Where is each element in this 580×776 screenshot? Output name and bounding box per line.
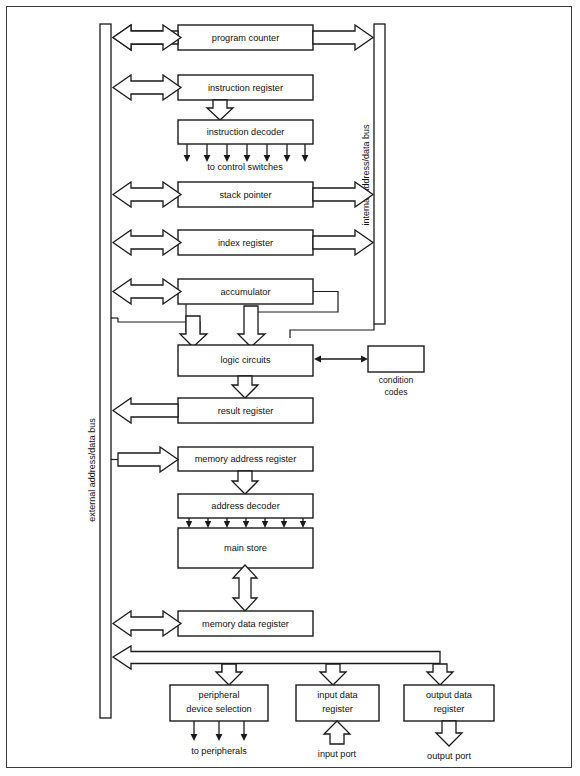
arrow-output-register-to-port [436,721,462,746]
block-condition-codes [368,346,424,372]
arrow-stack-pointer-external [113,182,181,207]
label-instruction-register: instruction register [208,83,283,93]
arrowhead-condition-to-logic [314,356,321,363]
label-peripheral-line2: device selection [186,704,251,714]
external-bus-label: external address/data bus [87,418,97,522]
label-index-register: index register [218,238,273,248]
label-memory-address-register: memory address register [195,454,297,464]
internal-bus-label: internal address/data bus [361,124,371,226]
label-memory-data-register: memory data register [202,619,289,629]
label-to-peripherals: to peripherals [191,746,247,756]
label-input-data-line1: input data [317,690,358,700]
arrow-accumulator-external [113,279,181,304]
arrow-instruction-register-external [113,75,181,100]
label-output-data-line2: register [434,704,465,714]
label-input-port: input port [318,749,357,759]
arrow-logic-to-result [232,376,258,398]
label-main-store: main store [224,543,267,553]
label-program-counter: program counter [212,33,279,43]
arrow-input-register-to-bus [320,664,346,685]
figure-canvas: external address/data bus internal addre… [0,0,580,776]
label-accumulator: accumulator [220,287,270,297]
label-to-control-switches: to control switches [207,162,283,172]
arrow-to-output-data-register [427,664,453,685]
fanout-peripherals [191,721,248,741]
arrowhead-logic-to-condition [361,356,368,363]
cpu-block-diagram: external address/data bus internal addre… [0,0,580,776]
arrow-result-to-external [113,398,178,423]
fanout-address-decoder [186,518,306,528]
fanout-control-switches [184,144,309,162]
arrow-mainstore-mdr [233,565,257,611]
label-logic-circuits: logic circuits [220,355,270,365]
internal-bus-lane [374,24,385,324]
label-instruction-decoder: instruction decoder [207,127,285,137]
arrow-ir-to-decoder [207,100,233,120]
label-input-data-line2: register [322,704,353,714]
label-condition-codes-line2: codes [385,387,408,397]
label-output-port: output port [427,751,471,761]
arrow-mdr-external [113,611,181,636]
arrow-index-register-external [113,230,181,255]
external-bus-lane [100,24,111,718]
label-output-data-line1: output data [426,690,473,700]
arrow-pc-to-internal [313,25,373,50]
label-stack-pointer: stack pointer [219,190,271,200]
label-address-decoder: address decoder [211,501,279,511]
arrow-to-peripheral-selection [216,664,242,685]
arrow-mar-to-address-decoder [232,471,258,494]
arrow-pc-left-double [113,25,181,50]
arrow-external-to-mar [118,447,178,472]
label-result-register: result register [218,406,274,416]
label-condition-codes-line1: condition [379,375,414,385]
label-peripheral-line1: peripheral [199,690,240,700]
arrow-input-port-to-register [324,721,350,744]
arrow-index-register-internal [313,230,373,255]
io-bus-channel [113,646,440,669]
internal-bus-return-path [290,324,374,338]
arrow-into-logic-left [180,316,207,347]
